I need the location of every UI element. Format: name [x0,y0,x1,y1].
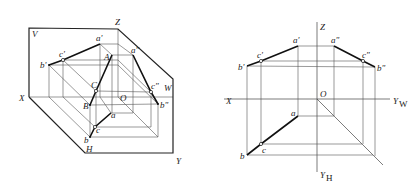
label-b-double-prime: b" [377,63,386,73]
label-a-double-prime: a" [331,35,340,45]
label-b-prime: b' [40,60,48,70]
label-b-double-prime: b" [160,100,169,110]
label-c: c [262,145,266,155]
label-c-double-prime: c" [362,50,370,60]
label-c-prime: c' [257,50,264,60]
label-b-prime: b' [238,62,246,72]
label-w-plane: W [164,83,173,93]
label-A: A [103,52,110,62]
label-a: a [111,110,116,120]
front-projection-edges [49,44,100,65]
label-x: X [18,93,25,103]
label-a-prime: a' [96,33,104,43]
label-o: O [320,89,327,99]
left-axonometric-figure: V Z W X O H Y a' b' c' A B C a" b" c" a … [18,17,182,166]
label-h-plane: H [85,144,93,154]
label-yh-subscript: H [326,173,333,183]
label-v-plane: V [32,29,39,39]
label-z: Z [320,22,326,32]
label-c-prime: c' [59,49,66,59]
top-view-edges [247,116,298,155]
projection-axes [224,22,390,172]
label-b: b [240,151,245,161]
label-a-double-prime: a" [131,45,140,55]
label-yw-subscript: W [399,99,408,109]
triangle-projections [247,46,375,155]
label-C: C [91,80,98,90]
label-z: Z [115,17,121,27]
label-o: O [120,93,127,103]
label-b: b [84,135,89,145]
label-y: Y [176,156,182,166]
label-c-double-prime: c" [151,81,159,91]
front-view-edges [247,46,298,66]
label-a: a [291,108,296,118]
right-orthographic-figure: Z X O Y W Y H a' b' c' a" b" c" a b c [224,22,408,183]
label-x: X [225,96,232,106]
label-a-prime: a' [293,35,301,45]
projection-diagram: V Z W X O H Y a' b' c' A B C a" b" c" a … [0,0,416,190]
label-c: c [96,125,100,135]
label-B: B [83,101,89,111]
